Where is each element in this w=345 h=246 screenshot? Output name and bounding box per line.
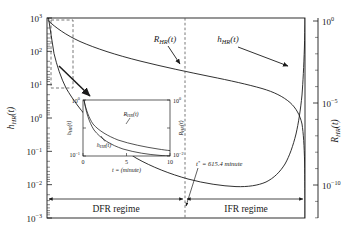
ifr-regime-label: IFR regime (224, 204, 268, 214)
chart-svg: 103 102 101 100 10−1 10−2 10−3 hHR(t) 10… (0, 0, 345, 246)
inset-xtick-0: 0 (82, 159, 85, 165)
inset-x-axis-title: t = (minute) (112, 167, 141, 174)
left-axis-title: hHR(t) (6, 107, 17, 129)
left-ytick-label-2: 101 (30, 79, 42, 90)
left-ytick-label-0: 103 (30, 12, 42, 23)
figure-container: 103 102 101 100 10−1 10−2 10−3 hHR(t) 10… (0, 0, 345, 246)
left-ytick-label-5: 10−2 (26, 179, 42, 190)
inset-xtick-1: 5 (125, 159, 128, 165)
left-ytick-label-4: 10−1 (26, 146, 42, 157)
right-ytick-label-1: 10−5 (322, 97, 338, 108)
left-ytick-label-3: 100 (30, 112, 42, 123)
right-axis-title: RHR(t) (330, 119, 341, 143)
right-ytick-label-0: 100 (322, 15, 334, 26)
inset-xtick-2: 10 (167, 159, 173, 165)
left-ytick-label-1: 102 (30, 46, 42, 57)
right-ytick-label-2: 10−10 (322, 179, 341, 190)
t-star-annotation: t* = 615.4 minute (196, 160, 243, 167)
right-axis-major-ticks (313, 21, 318, 185)
left-ytick-label-6: 10−3 (26, 212, 42, 223)
dfr-regime-label: DFR regime (92, 204, 139, 214)
